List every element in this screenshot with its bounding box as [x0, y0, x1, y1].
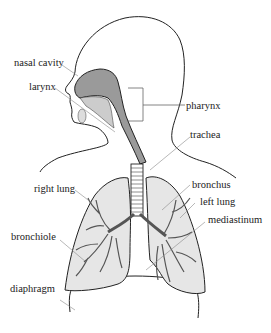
label-right-lung: right lung	[34, 184, 75, 195]
label-trachea: trachea	[190, 130, 220, 141]
right-lung-shape	[65, 178, 131, 291]
tongue-detail	[78, 109, 86, 123]
label-left-lung: left lung	[200, 197, 235, 208]
label-bronchiole: bronchiole	[11, 232, 56, 243]
label-diaphragm: diaphragm	[10, 284, 55, 295]
label-nasal-cavity: nasal cavity	[14, 58, 64, 69]
label-bronchus: bronchus	[192, 180, 231, 191]
left-lung-shape	[146, 177, 205, 294]
label-mediastinum: mediastinum	[208, 215, 262, 226]
label-pharynx: pharynx	[186, 101, 220, 112]
label-larynx: larynx	[29, 82, 56, 93]
